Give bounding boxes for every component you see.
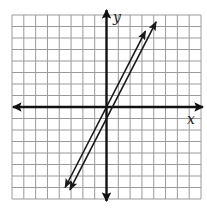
coordinate-graph: x y — [0, 0, 207, 209]
y-axis-label: y — [112, 9, 122, 25]
x-axis-label: x — [187, 111, 195, 127]
